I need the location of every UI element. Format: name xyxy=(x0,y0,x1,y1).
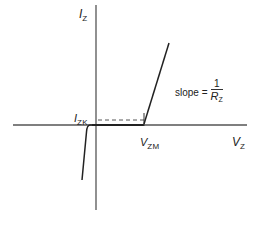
diagram-canvas xyxy=(0,0,258,226)
forward-curve xyxy=(82,125,96,180)
slope-annotation: slope = 1 RZ xyxy=(175,78,223,106)
breakdown-curve xyxy=(144,43,169,124)
vzm-label: VZM xyxy=(140,137,159,151)
y-axis-label: IZ xyxy=(79,8,87,23)
slope-numerator: 1 xyxy=(214,78,220,89)
x-axis-label: VZ xyxy=(232,136,245,151)
slope-prefix: slope = xyxy=(175,87,208,98)
slope-fraction: 1 RZ xyxy=(211,78,223,106)
izk-label: IZK xyxy=(74,113,88,127)
slope-denominator: RZ xyxy=(211,89,223,106)
